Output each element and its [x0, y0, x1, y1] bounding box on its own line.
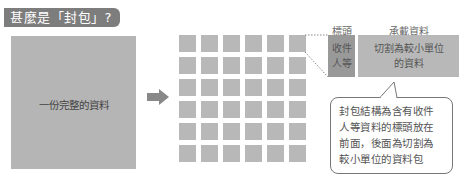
packet-cell	[289, 35, 306, 52]
packet-cell	[223, 123, 240, 140]
packet-cell	[223, 79, 240, 96]
packet-cell	[223, 145, 240, 162]
packet-cell	[267, 101, 284, 118]
callout-line: 人等資料的標頭放在	[339, 119, 444, 135]
packet-cell	[223, 101, 240, 118]
packet-cell	[245, 123, 262, 140]
packet-cell	[245, 145, 262, 162]
packet-cell	[201, 57, 218, 74]
whole-data-block: 一份完整的資料	[11, 36, 136, 169]
packet-cell	[179, 57, 196, 74]
payload-line: 的資料	[374, 56, 444, 71]
packet-cell	[267, 123, 284, 140]
packet-cell	[179, 123, 196, 140]
payload-line: 切割為較小單位	[374, 41, 444, 56]
right-arrow-icon	[147, 89, 169, 105]
packet-cell	[201, 79, 218, 96]
packet-cell	[201, 35, 218, 52]
packet-payload-block: 切割為較小單位 的資料	[358, 35, 459, 77]
packet-cell	[179, 145, 196, 162]
packet-cell	[201, 123, 218, 140]
packet-cell	[201, 101, 218, 118]
callout-line: 封包結構為含有收件	[339, 103, 444, 119]
packet-cell	[179, 101, 196, 118]
header-line: 收件	[332, 41, 352, 56]
packet-cell	[267, 57, 284, 74]
packet-cell	[289, 79, 306, 96]
packet-cell	[267, 35, 284, 52]
explanation-callout: 封包結構為含有收件 人等資料的標頭放在 前面，後面為切割為 較小單位的資料包	[330, 97, 453, 174]
packet-cell	[223, 57, 240, 74]
packet-grid	[179, 35, 306, 162]
packet-cell	[289, 57, 306, 74]
callout-line: 較小單位的資料包	[339, 151, 444, 167]
packet-cell	[245, 79, 262, 96]
packet-cell	[223, 35, 240, 52]
packet-cell	[245, 35, 262, 52]
title-badge: 甚麼是「封包」?	[4, 8, 120, 27]
whole-data-label: 一份完整的資料	[11, 97, 136, 112]
packet-cell	[289, 123, 306, 140]
packet-cell	[179, 79, 196, 96]
callout-line: 前面，後面為切割為	[339, 135, 444, 151]
packet-cell	[245, 57, 262, 74]
header-line: 人等	[332, 56, 352, 71]
packet-cell	[267, 145, 284, 162]
packet-cell	[289, 145, 306, 162]
packet-cell	[267, 79, 284, 96]
packet-cell	[245, 101, 262, 118]
packet-cell	[201, 145, 218, 162]
packet-cell	[289, 101, 306, 118]
packet-cell	[179, 35, 196, 52]
packet-header-block: 收件 人等	[328, 35, 355, 77]
